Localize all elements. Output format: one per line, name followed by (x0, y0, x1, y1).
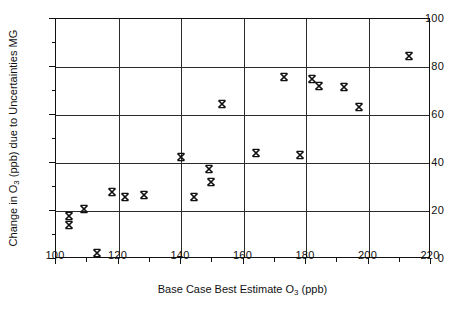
data-point-marker[interactable] (177, 153, 186, 162)
plot-area (55, 18, 430, 258)
gridline-vertical (181, 19, 182, 257)
x-axis-tick-label: 100 (46, 249, 65, 261)
x-axis-tick (336, 258, 337, 262)
y-axis-tick (52, 186, 56, 187)
data-point-marker[interactable] (280, 72, 289, 81)
data-point-marker[interactable] (339, 83, 348, 92)
x-axis-title-prefix: Base Case Best Estimate O (158, 283, 294, 295)
data-point-marker[interactable] (252, 149, 261, 158)
y-axis-tick (49, 66, 55, 67)
gridline-vertical (306, 19, 307, 257)
y-axis-tick-label: 80 (431, 60, 444, 72)
x-axis-title: Base Case Best Estimate O3 (ppb) (55, 283, 430, 297)
gridline-vertical (369, 19, 370, 257)
data-point-marker[interactable] (405, 52, 414, 61)
x-axis-tick-label: 220 (421, 249, 440, 261)
x-axis-tick-label: 160 (233, 249, 252, 261)
y-axis-tick (49, 210, 55, 211)
y-axis-title-suffix: (ppb) due to Uncertainties MG (7, 30, 19, 180)
data-point-marker[interactable] (295, 150, 304, 159)
data-point-marker[interactable] (355, 102, 364, 111)
y-axis-tick (49, 162, 55, 163)
data-point-marker[interactable] (92, 249, 101, 258)
y-axis-tick (52, 90, 56, 91)
y-axis-tick (52, 42, 56, 43)
data-point-marker[interactable] (64, 221, 73, 230)
data-point-marker[interactable] (139, 191, 148, 200)
x-axis-tick (211, 258, 212, 262)
data-point-marker[interactable] (80, 204, 89, 213)
x-axis-tick (399, 258, 400, 262)
data-point-marker[interactable] (120, 192, 129, 201)
gridline-horizontal (56, 211, 429, 212)
y-axis-tick-label: 0 (438, 252, 444, 264)
x-axis-tick (274, 258, 275, 262)
data-point-marker[interactable] (314, 82, 323, 91)
data-point-marker[interactable] (189, 192, 198, 201)
gridline-horizontal (56, 115, 429, 116)
x-axis-tick-label: 120 (108, 249, 127, 261)
y-axis-tick (49, 114, 55, 115)
x-axis-tick (86, 258, 87, 262)
gridline-vertical (244, 19, 245, 257)
gridline-vertical (119, 19, 120, 257)
data-point-marker[interactable] (108, 187, 117, 196)
data-point-marker[interactable] (206, 178, 215, 187)
data-point-marker[interactable] (205, 165, 214, 174)
x-axis-tick-label: 140 (171, 249, 190, 261)
y-axis-tick-label: 100 (425, 12, 444, 24)
x-axis-title-suffix: (ppb) (299, 283, 328, 295)
y-axis-title: Change in O3 (ppb) due to Uncertainties … (5, 18, 23, 258)
x-axis-tick-label: 200 (358, 249, 377, 261)
y-axis-tick (52, 234, 56, 235)
x-axis-tick-label: 180 (296, 249, 315, 261)
gridline-horizontal (56, 163, 429, 164)
y-axis-tick-label: 40 (431, 156, 444, 168)
y-axis-tick (49, 18, 55, 19)
data-point-marker[interactable] (64, 211, 73, 220)
gridline-horizontal (56, 67, 429, 68)
scatter-plot-figure: Change in O3 (ppb) due to Uncertainties … (0, 0, 453, 313)
y-axis-tick (52, 138, 56, 139)
data-point-marker[interactable] (217, 100, 226, 109)
y-axis-title-subscript: 3 (12, 180, 21, 184)
x-axis-tick (149, 258, 150, 262)
y-axis-title-prefix: Change in O (7, 185, 19, 247)
y-axis-tick-label: 60 (431, 108, 444, 120)
y-axis-tick-label: 20 (431, 204, 444, 216)
